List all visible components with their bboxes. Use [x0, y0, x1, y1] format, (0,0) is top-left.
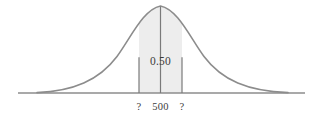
axis-tick-label-left: ?	[137, 102, 142, 113]
shaded-area-fill	[37, 6, 288, 93]
normal-distribution-figure: 0.50 ? 500 ?	[0, 0, 318, 122]
shaded-area-label: 0.50	[150, 56, 171, 68]
axis-tick-label-center: 500	[152, 102, 168, 113]
shaded-area-region	[37, 6, 288, 93]
axis-tick-label-right: ?	[180, 102, 185, 113]
